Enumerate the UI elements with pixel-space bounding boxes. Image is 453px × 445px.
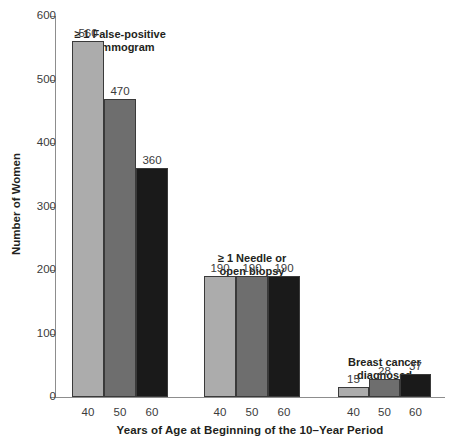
bar-cell[interactable]: 37 bbox=[400, 374, 431, 397]
y-axis-tick-label: 100 bbox=[18, 327, 56, 339]
bar[interactable] bbox=[268, 276, 300, 397]
bar-cell[interactable]: 190 bbox=[236, 276, 268, 397]
y-axis-title: Number of Women bbox=[10, 144, 22, 264]
y-axis-tick: 200 bbox=[0, 270, 56, 271]
bar-chart: 6005004003002001000 Number of Women Year… bbox=[0, 0, 453, 445]
x-axis-tick-label: 40 bbox=[204, 397, 236, 406]
bar[interactable] bbox=[236, 276, 268, 397]
y-axis-tick: 500 bbox=[0, 80, 56, 81]
y-axis-tick-label: 200 bbox=[18, 263, 56, 275]
y-axis-tick-label: 600 bbox=[18, 9, 56, 21]
bar-group-bars: 560470360 bbox=[72, 41, 168, 397]
bar-group-bars: 152837 bbox=[338, 374, 431, 397]
y-axis-tick: 300 bbox=[0, 207, 56, 208]
bar-cell[interactable]: 15 bbox=[338, 387, 369, 397]
bar[interactable] bbox=[204, 276, 236, 397]
y-axis-tick: 0 bbox=[0, 397, 56, 398]
bar-value-label: 190 bbox=[274, 262, 293, 274]
bar-value-label: 37 bbox=[409, 360, 422, 372]
bar[interactable] bbox=[72, 41, 104, 397]
y-axis-tick: 100 bbox=[0, 334, 56, 335]
bar-value-label: 190 bbox=[210, 262, 229, 274]
x-axis-tick-label: 40 bbox=[72, 397, 104, 406]
y-axis-tick: 600 bbox=[0, 16, 56, 17]
bar[interactable] bbox=[338, 387, 369, 397]
bar-value-label: 470 bbox=[110, 85, 129, 97]
bar-cell[interactable]: 190 bbox=[268, 276, 300, 397]
bar-value-label: 190 bbox=[242, 262, 261, 274]
x-axis-tick-label: 50 bbox=[236, 397, 268, 406]
y-axis-tick-label: 0 bbox=[18, 390, 56, 402]
bar-value-label: 28 bbox=[378, 365, 391, 377]
x-axis-tick-label: 50 bbox=[369, 397, 400, 406]
x-axis-tick-label: 40 bbox=[338, 397, 369, 406]
x-axis-tick-label: 60 bbox=[136, 397, 168, 406]
bar-group-bars: 190190190 bbox=[204, 276, 300, 397]
y-axis-tick: 400 bbox=[0, 143, 56, 144]
bar-value-label: 360 bbox=[142, 154, 161, 166]
y-axis-tick-label: 300 bbox=[18, 200, 56, 212]
bar-value-label: 560 bbox=[78, 27, 97, 39]
bar[interactable] bbox=[136, 168, 168, 397]
x-axis-title: Years of Age at Beginning of the 10–Year… bbox=[55, 424, 445, 436]
bar-cell[interactable]: 560 bbox=[72, 41, 104, 397]
bar-cell[interactable]: 360 bbox=[136, 168, 168, 397]
bar-value-label: 15 bbox=[347, 373, 360, 385]
x-axis-tick-label: 50 bbox=[104, 397, 136, 406]
bar-cell[interactable]: 190 bbox=[204, 276, 236, 397]
x-axis-tick-label: 60 bbox=[400, 397, 431, 406]
y-axis-tick-label: 400 bbox=[18, 136, 56, 148]
x-axis-tick-label: 60 bbox=[268, 397, 300, 406]
bar[interactable] bbox=[104, 99, 136, 397]
bar[interactable] bbox=[400, 374, 431, 397]
bar[interactable] bbox=[369, 379, 400, 397]
y-axis-tick-label: 500 bbox=[18, 73, 56, 85]
bar-cell[interactable]: 470 bbox=[104, 99, 136, 397]
bar-cell[interactable]: 28 bbox=[369, 379, 400, 397]
